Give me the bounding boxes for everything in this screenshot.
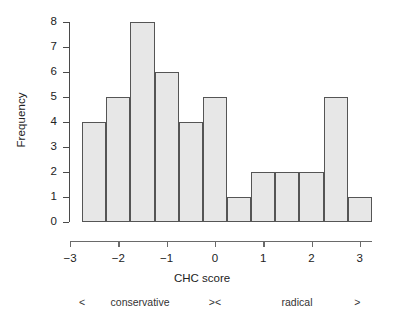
histogram-bar [155, 72, 179, 222]
y-axis-tick-label: 6 [35, 66, 57, 78]
x-axis-line [70, 241, 372, 242]
y-axis-tick-label: 8 [35, 16, 57, 28]
y-axis-tick-mark [63, 172, 69, 173]
histogram-bar [130, 22, 154, 222]
x-axis-tick-label: 3 [340, 253, 380, 265]
x-axis-tick-mark [118, 241, 119, 247]
scale-annotation-item: < [79, 292, 85, 312]
y-axis-tick-label: 7 [35, 41, 57, 53]
y-axis-line [69, 22, 70, 222]
y-axis-tick-label: 4 [35, 116, 57, 128]
y-axis-tick-mark [63, 72, 69, 73]
scale-annotation-row: <conservative><radical> [0, 292, 404, 312]
scale-annotation-item: > [354, 292, 360, 312]
x-axis-tick-label: 0 [195, 253, 235, 265]
y-axis-tick-label: 0 [35, 216, 57, 228]
x-axis-tick-label: 1 [243, 253, 283, 265]
x-axis-tick-label: −3 [50, 253, 90, 265]
histogram-bar [203, 97, 227, 222]
x-axis-tick-label: −1 [147, 253, 187, 265]
y-axis-tick-mark [63, 197, 69, 198]
histogram-bar [179, 122, 203, 222]
histogram-bar [82, 122, 106, 222]
y-axis-tick-mark [63, 47, 69, 48]
y-axis-tick-label: 1 [35, 191, 57, 203]
x-axis-title: CHC score [0, 272, 404, 284]
histogram-bar [324, 97, 348, 222]
scale-annotation-item: radical [282, 292, 313, 312]
x-axis-tick-label: 2 [292, 253, 332, 265]
x-axis-tick-mark [167, 241, 168, 247]
x-axis-tick-mark [360, 241, 361, 247]
histogram-bar [275, 172, 299, 222]
y-axis-tick-mark [63, 97, 69, 98]
histogram-bar [251, 172, 275, 222]
x-axis-tick-mark [215, 241, 216, 247]
scale-annotation-item: >< [209, 292, 221, 312]
y-axis-tick-mark [63, 147, 69, 148]
x-axis-tick-mark [312, 241, 313, 247]
histogram-bar [227, 197, 251, 222]
y-axis-tick-label: 3 [35, 141, 57, 153]
x-axis-tick-label: −2 [98, 253, 138, 265]
y-axis-tick-mark [63, 22, 69, 23]
histogram-bar [348, 197, 372, 222]
y-axis-tick-mark [63, 222, 69, 223]
scale-annotation-item: conservative [111, 292, 170, 312]
x-axis-tick-mark [263, 241, 264, 247]
histogram-figure: Frequency 012345678−3−2−10123 CHC score … [0, 0, 404, 328]
y-axis-tick-mark [63, 122, 69, 123]
y-axis-tick-label: 2 [35, 166, 57, 178]
histogram-bar [106, 97, 130, 222]
x-axis-tick-mark [70, 241, 71, 247]
histogram-bar [299, 172, 323, 222]
y-axis-tick-label: 5 [35, 91, 57, 103]
